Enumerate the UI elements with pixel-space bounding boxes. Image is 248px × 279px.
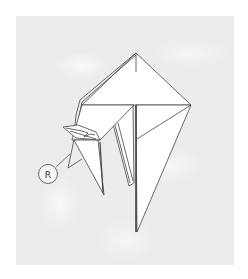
reference-label: R (45, 170, 51, 180)
top-diamond-flap (82, 53, 191, 105)
origami-diagram: R (0, 0, 248, 279)
origami-model (63, 53, 191, 232)
reference-marker: R (39, 154, 71, 184)
leader-line (56, 154, 70, 167)
long-tail-point (136, 105, 191, 232)
front-leg-flap (74, 140, 104, 195)
